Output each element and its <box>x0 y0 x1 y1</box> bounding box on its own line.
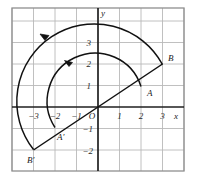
coordinate-plane-svg: −3 −2 −1 1 2 3 3 2 1 −1 −2 x y O A B A′ … <box>0 0 200 180</box>
x-tick-label--3: −3 <box>28 111 39 121</box>
x-axis-label: x <box>173 111 178 121</box>
figure-background <box>0 0 200 180</box>
x-tick-label-3: 3 <box>159 111 165 121</box>
x-tick-label--1: −1 <box>71 111 82 121</box>
origin-label: O <box>89 111 96 121</box>
point-label-B-prime: B′ <box>27 155 35 165</box>
x-tick-label-2: 2 <box>139 111 144 121</box>
point-label-A-prime: A′ <box>56 132 65 142</box>
y-tick-label-3: 3 <box>86 38 92 48</box>
x-tick-label-1: 1 <box>117 111 122 121</box>
y-axis-label: y <box>100 8 105 18</box>
y-tick-label--2: −2 <box>82 146 93 156</box>
y-tick-label--1: −1 <box>82 124 93 134</box>
x-tick-label--2: −2 <box>50 111 61 121</box>
point-label-A: A <box>146 88 153 98</box>
geometry-figure: −3 −2 −1 1 2 3 3 2 1 −1 −2 x y O A B A′ … <box>0 0 200 180</box>
point-label-B: B <box>168 53 174 63</box>
y-tick-label-2: 2 <box>87 59 92 69</box>
y-tick-label-1: 1 <box>87 81 92 91</box>
